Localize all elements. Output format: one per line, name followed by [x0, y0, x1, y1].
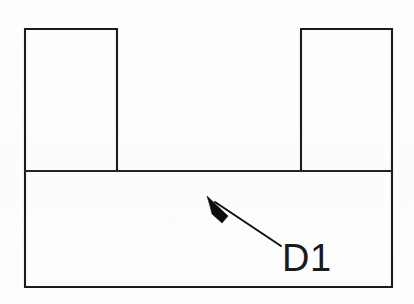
drawing-page: D1: [0, 0, 414, 304]
part-outline-path: [25, 29, 392, 287]
technical-drawing-figure: D1: [0, 0, 414, 304]
leader-line: [215, 202, 281, 246]
callout-label-d1: D1: [282, 237, 332, 279]
